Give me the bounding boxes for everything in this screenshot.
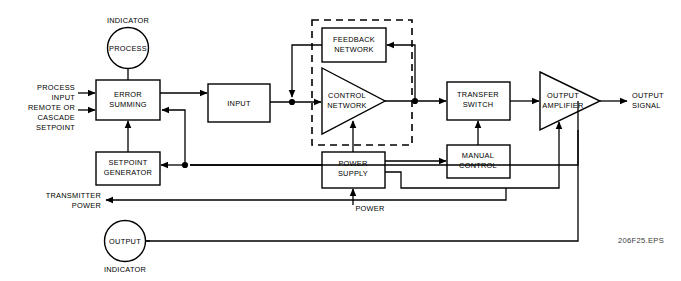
- error-summing-label-line1: ERROR: [114, 90, 142, 99]
- transmitter-power-label-line2: POWER: [72, 201, 101, 210]
- process-input-label-line2: INPUT: [52, 93, 76, 102]
- output-signal-label-line2: SIGNAL: [632, 101, 661, 110]
- process-indicator-caption: INDICATOR: [107, 16, 149, 25]
- power-input-label: POWER: [355, 204, 384, 213]
- wire-feedback-network-left-output: [292, 45, 322, 97]
- output-amplifier-label-line2: AMPLIFIER: [542, 101, 583, 110]
- output-indicator-caption: INDICATOR: [104, 265, 146, 274]
- manual-control-label-line2: CONTROL: [459, 161, 497, 170]
- output-signal-label-line1: OUTPUT: [632, 91, 664, 100]
- feedback-network-label-line2: NETWORK: [334, 45, 374, 54]
- transmitter-power-label-line1: TRANSMITTER: [46, 191, 101, 200]
- wire-transmitter-power-out: [106, 188, 506, 200]
- remote-setpoint-label-line2: CASCADE: [38, 113, 75, 122]
- manual-control-label-line1: MANUAL: [462, 151, 494, 160]
- wire-control-output-to-feedback-network: [387, 45, 415, 101]
- wire-setpoint-bus-to-error-summing: [162, 110, 185, 165]
- figure-caption: 206F25.EPS: [618, 236, 664, 245]
- block-diagram-svg: INDICATOR PROCESS OUTPUT INDICATOR ERROR…: [0, 0, 681, 281]
- process-indicator-label: PROCESS: [109, 44, 147, 53]
- junction-dot-input-output: [289, 99, 295, 105]
- setpoint-generator-label-line2: GENERATOR: [104, 168, 152, 177]
- power-supply-label-line2: SUPPLY: [338, 169, 368, 178]
- input-label-line1: INPUT: [227, 99, 251, 108]
- control-network-label-line2: NETWORK: [327, 101, 367, 110]
- feedback-network-label-line1: FEEDBACK: [333, 35, 375, 44]
- process-input-label-line1: PROCESS: [37, 83, 75, 92]
- transfer-switch-label-line2: SWITCH: [463, 100, 494, 109]
- power-supply-label-line1: POWER: [338, 159, 367, 168]
- remote-setpoint-label-line1: REMOTE OR: [28, 103, 75, 112]
- error-summing-label-line2: SUMMING: [109, 100, 146, 109]
- output-indicator-label: OUTPUT: [109, 237, 141, 246]
- block-diagram-canvas: INDICATOR PROCESS OUTPUT INDICATOR ERROR…: [0, 0, 681, 281]
- transfer-switch-label-line1: TRANSFER: [457, 90, 499, 99]
- control-network-label-line1: CONTROL: [328, 91, 366, 100]
- remote-setpoint-label-line3: SETPOINT: [36, 123, 75, 132]
- output-amplifier-label-line1: OUTPUT: [547, 91, 579, 100]
- setpoint-generator-label-line1: SETPOINT: [109, 158, 148, 167]
